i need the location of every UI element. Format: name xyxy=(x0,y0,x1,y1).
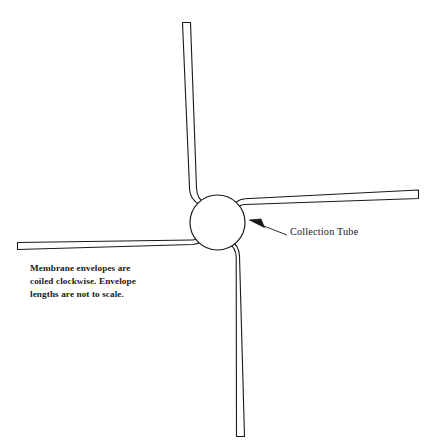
collection-tube-label: Collection Tube xyxy=(290,226,358,237)
diagram-note: Membrane envelopes are coiled clockwise.… xyxy=(30,262,175,301)
envelope-bottom-shape xyxy=(229,241,245,437)
envelope-top-shape xyxy=(183,23,206,207)
diagram-note-line-3: lengths are not to scale. xyxy=(30,288,175,301)
spiral-wound-membrane-diagram xyxy=(0,0,431,448)
envelope-right-shape xyxy=(231,190,419,211)
collection-tube-hub xyxy=(190,195,245,250)
envelope-left-shape xyxy=(18,233,209,250)
callout-arrowhead-icon xyxy=(250,219,265,228)
diagram-note-line-1: Membrane envelopes are xyxy=(30,262,175,275)
diagram-note-line-2: coiled clockwise. Envelope xyxy=(30,275,175,288)
diagram-canvas: Collection Tube Membrane envelopes are c… xyxy=(0,0,431,448)
